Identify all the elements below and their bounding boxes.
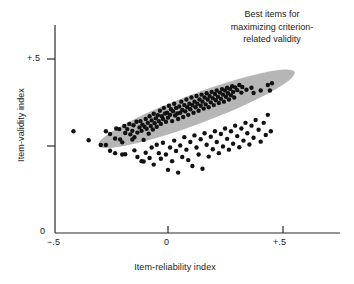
scatter-point bbox=[245, 131, 249, 135]
scatter-point bbox=[151, 127, 155, 131]
scatter-point bbox=[196, 152, 200, 156]
scatter-point bbox=[251, 136, 255, 140]
scatter-plot-figure: −.5 0 +.5 +.5 0 Item-validity index Item… bbox=[0, 0, 354, 284]
scatter-point bbox=[232, 95, 236, 99]
scatter-point bbox=[196, 108, 200, 112]
scatter-point bbox=[144, 127, 148, 131]
scatter-point bbox=[256, 128, 260, 132]
scatter-point bbox=[182, 135, 186, 139]
scatter-point bbox=[161, 140, 165, 144]
scatter-point bbox=[132, 148, 136, 152]
scatter-point bbox=[219, 132, 223, 136]
scatter-point bbox=[207, 105, 211, 109]
scatter-point bbox=[143, 151, 147, 155]
y-tick-label-pos-half: +.5 bbox=[27, 53, 40, 63]
scatter-point bbox=[130, 137, 134, 141]
scatter-point bbox=[241, 138, 245, 142]
scatter-point bbox=[171, 109, 175, 113]
scatter-point bbox=[134, 120, 138, 124]
scatter-point bbox=[164, 120, 168, 124]
scatter-point bbox=[235, 88, 239, 92]
scatter-point bbox=[215, 140, 219, 144]
scatter-point bbox=[258, 88, 262, 92]
scatter-point bbox=[202, 131, 206, 135]
scatter-point bbox=[233, 123, 237, 127]
scatter-point bbox=[249, 123, 253, 127]
scatter-point bbox=[162, 106, 166, 110]
scatter-point bbox=[156, 113, 160, 117]
scatter-point bbox=[155, 124, 159, 128]
scatter-point bbox=[191, 111, 195, 115]
scatter-point bbox=[123, 131, 127, 135]
scatter-point bbox=[231, 142, 235, 146]
scatter-point bbox=[86, 138, 90, 142]
scatter-point bbox=[99, 143, 103, 147]
scatter-point bbox=[225, 137, 229, 141]
scatter-point bbox=[181, 115, 185, 119]
x-tick-label-zero: 0 bbox=[164, 237, 169, 247]
scatter-point bbox=[166, 168, 170, 172]
scatter-point bbox=[266, 113, 270, 117]
scatter-point bbox=[172, 102, 176, 106]
scatter-point bbox=[164, 152, 168, 156]
scatter-point bbox=[174, 149, 178, 153]
scatter-point bbox=[147, 114, 151, 118]
scatter-point bbox=[258, 139, 262, 143]
scatter-point bbox=[229, 129, 233, 133]
scatter-point bbox=[239, 126, 243, 130]
scatter-point bbox=[125, 127, 129, 131]
scatter-point bbox=[231, 90, 235, 94]
scatter-point bbox=[180, 155, 184, 159]
scatter-point bbox=[192, 133, 196, 137]
scatter-point bbox=[200, 167, 204, 171]
scatter-point bbox=[104, 143, 108, 147]
scatter-point bbox=[141, 159, 145, 163]
y-tick-label-zero: 0 bbox=[40, 226, 45, 236]
scatter-point bbox=[152, 112, 156, 116]
scatter-point bbox=[201, 106, 205, 110]
scatter-point bbox=[212, 103, 216, 107]
scatter-point bbox=[184, 147, 188, 151]
axes bbox=[47, 25, 340, 233]
scatter-point bbox=[177, 104, 181, 108]
scatter-point bbox=[159, 122, 163, 126]
annotation-line-1: Best items for bbox=[196, 8, 348, 21]
annotation-line-3: related validity bbox=[196, 33, 348, 46]
scatter-point bbox=[188, 107, 192, 111]
scatter-point bbox=[146, 131, 150, 135]
scatter-point bbox=[243, 121, 247, 125]
scatter-point bbox=[240, 85, 244, 89]
scatter-point bbox=[170, 159, 174, 163]
scatter-point bbox=[147, 156, 151, 160]
scatter-point bbox=[158, 108, 162, 112]
scatter-point bbox=[168, 113, 172, 117]
scatter-point bbox=[186, 113, 190, 117]
scatter-point bbox=[113, 136, 117, 140]
scatter-point bbox=[244, 88, 248, 92]
scatter-point bbox=[176, 117, 180, 121]
scatter-point bbox=[178, 143, 182, 147]
scatter-point bbox=[217, 101, 221, 105]
scatter-point bbox=[188, 140, 192, 144]
scatter-point bbox=[131, 123, 135, 127]
scatter-point bbox=[71, 129, 75, 133]
scatter-point bbox=[268, 88, 272, 92]
scatter-point bbox=[168, 145, 172, 149]
scatter-point bbox=[213, 129, 217, 133]
x-tick-label-neg-half: −.5 bbox=[47, 237, 60, 247]
scatter-point bbox=[152, 162, 156, 166]
scatter-point bbox=[172, 138, 176, 142]
scatter-point bbox=[227, 97, 231, 101]
scatter-point bbox=[194, 94, 198, 98]
scatter-point bbox=[139, 129, 143, 133]
scatter-point bbox=[170, 119, 174, 123]
scatter-point bbox=[239, 90, 243, 94]
scatter-point bbox=[204, 143, 208, 147]
scatter-point bbox=[141, 138, 145, 142]
y-axis-title: Item-validity index bbox=[16, 80, 26, 170]
scatter-point bbox=[135, 130, 139, 134]
best-items-annotation: Best items for maximizing criterion- rel… bbox=[196, 8, 348, 46]
scatter-point bbox=[104, 129, 108, 133]
scatter-point bbox=[176, 170, 180, 174]
scatter-point bbox=[211, 147, 215, 151]
